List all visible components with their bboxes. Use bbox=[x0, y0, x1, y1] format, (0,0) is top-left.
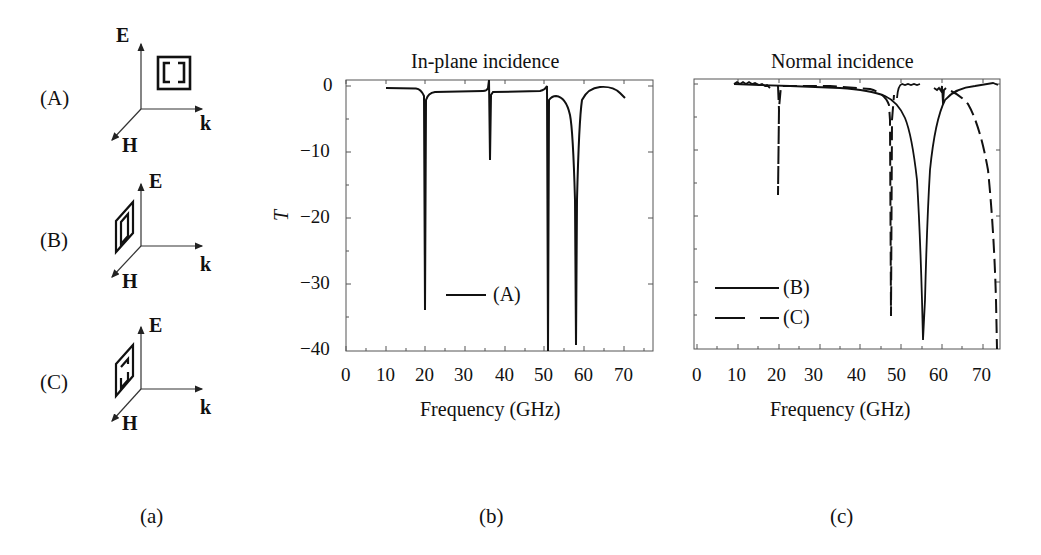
chart-c-xtick-4: 40 bbox=[847, 364, 866, 386]
chart-c-xtick-6: 60 bbox=[929, 364, 948, 386]
panel-label-c: (c) bbox=[830, 504, 853, 529]
legend-c-label: (C) bbox=[783, 306, 810, 329]
chart-c-xtick-7: 70 bbox=[972, 364, 991, 386]
chart-c-legend bbox=[0, 0, 1041, 555]
chart-c-xtick-2: 20 bbox=[767, 364, 786, 386]
panel-label-a: (a) bbox=[140, 504, 163, 529]
legend-b-label: (B) bbox=[783, 276, 810, 299]
chart-c-xtick-3: 30 bbox=[804, 364, 823, 386]
chart-c-xlabel: Frequency (GHz) bbox=[770, 398, 911, 421]
chart-c-xtick-1: 10 bbox=[727, 364, 746, 386]
chart-c-xtick-0: 0 bbox=[692, 364, 702, 386]
panel-label-b: (b) bbox=[479, 504, 504, 529]
chart-c-xtick-5: 50 bbox=[887, 364, 906, 386]
